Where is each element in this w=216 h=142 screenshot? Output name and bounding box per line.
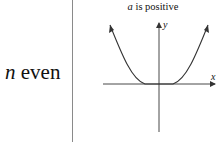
row-label-text: even <box>16 60 61 84</box>
row-label-variable: n <box>5 60 16 84</box>
row-label: n even <box>5 60 60 85</box>
column-divider <box>72 0 73 142</box>
row-label-cell: n even <box>0 0 72 142</box>
polynomial-graph: y x <box>100 0 216 142</box>
x-axis-label: x <box>210 71 216 82</box>
y-axis-label: y <box>162 19 168 30</box>
